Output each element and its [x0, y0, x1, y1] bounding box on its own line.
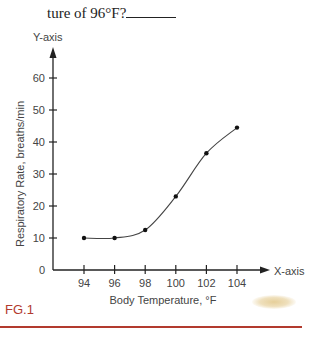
y-tick-label: 60 — [33, 72, 45, 84]
x-axis-name: X-axis — [274, 265, 305, 277]
y-tick-label: 40 — [33, 136, 45, 148]
data-points — [82, 125, 239, 240]
data-point — [235, 125, 239, 129]
y-tick-label: 0 — [39, 264, 45, 276]
ticks: 0102030405060949698100102104 — [33, 72, 246, 289]
x-tick-label: 96 — [108, 277, 120, 289]
data-point — [204, 151, 208, 155]
data-point — [112, 236, 116, 240]
y-tick-label: 30 — [33, 168, 45, 180]
divider-rule — [0, 326, 302, 328]
decorative-smudge — [252, 295, 296, 309]
x-tick-label: 104 — [228, 277, 246, 289]
y-tick-label: 20 — [33, 200, 45, 212]
y-axis-name: Y-axis — [33, 31, 63, 43]
chart: 0102030405060949698100102104 Y-axis X-ax… — [0, 0, 316, 337]
x-tick-label: 98 — [139, 277, 151, 289]
x-tick-label: 102 — [197, 277, 215, 289]
data-point — [82, 236, 86, 240]
y-axis-label: Respiratory Rate, breaths/min — [14, 101, 26, 247]
figure-label: FG.1 — [5, 302, 34, 317]
x-tick-label: 94 — [78, 277, 90, 289]
x-tick-label: 100 — [167, 277, 185, 289]
data-line — [84, 128, 237, 239]
data-point — [174, 194, 178, 198]
data-point — [143, 228, 147, 232]
y-tick-label: 50 — [33, 104, 45, 116]
y-tick-label: 10 — [33, 232, 45, 244]
x-axis-label: Body Temperature, °F — [110, 294, 217, 306]
